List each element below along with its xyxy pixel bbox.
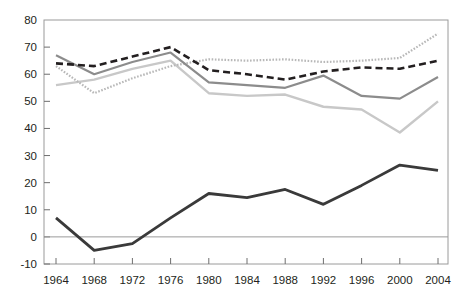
x-tick-label: 1976 <box>158 274 184 286</box>
y-axis-ticks <box>44 47 50 264</box>
y-tick-label: 50 <box>24 95 37 107</box>
y-tick-label: 60 <box>24 68 37 80</box>
x-tick-label: 1980 <box>196 274 222 286</box>
y-tick-label: 20 <box>24 177 37 189</box>
x-tick-label: 1996 <box>349 274 375 286</box>
y-tick-label: 30 <box>24 150 37 162</box>
y-tick-label: 0 <box>31 231 37 243</box>
y-tick-label: 40 <box>24 122 37 134</box>
x-tick-label: 2000 <box>387 274 413 286</box>
line-chart: 80706050403020100-10 1964196819721976198… <box>0 0 460 302</box>
series-solid-black <box>56 165 438 250</box>
plot-frame <box>44 20 448 264</box>
y-tick-label: -10 <box>20 258 37 270</box>
y-tick-label: 10 <box>24 204 37 216</box>
series-solid-dark-gray <box>56 53 438 99</box>
x-tick-label: 1972 <box>120 274 146 286</box>
data-series-group <box>56 34 438 251</box>
plot-border <box>44 20 448 264</box>
x-tick-label: 2004 <box>425 274 451 286</box>
x-tick-label: 1968 <box>81 274 107 286</box>
chart-canvas: 80706050403020100-10 1964196819721976198… <box>0 0 460 302</box>
y-tick-label: 70 <box>24 41 37 53</box>
y-axis-labels: 80706050403020100-10 <box>20 14 37 270</box>
x-axis-ticks <box>56 258 438 264</box>
x-tick-label: 1964 <box>43 274 69 286</box>
x-tick-label: 1984 <box>234 274 260 286</box>
x-tick-label: 1988 <box>272 274 298 286</box>
x-axis-labels: 1964196819721976198019841988199219962000… <box>43 274 451 286</box>
x-tick-label: 1992 <box>311 274 337 286</box>
y-tick-label: 80 <box>24 14 37 26</box>
